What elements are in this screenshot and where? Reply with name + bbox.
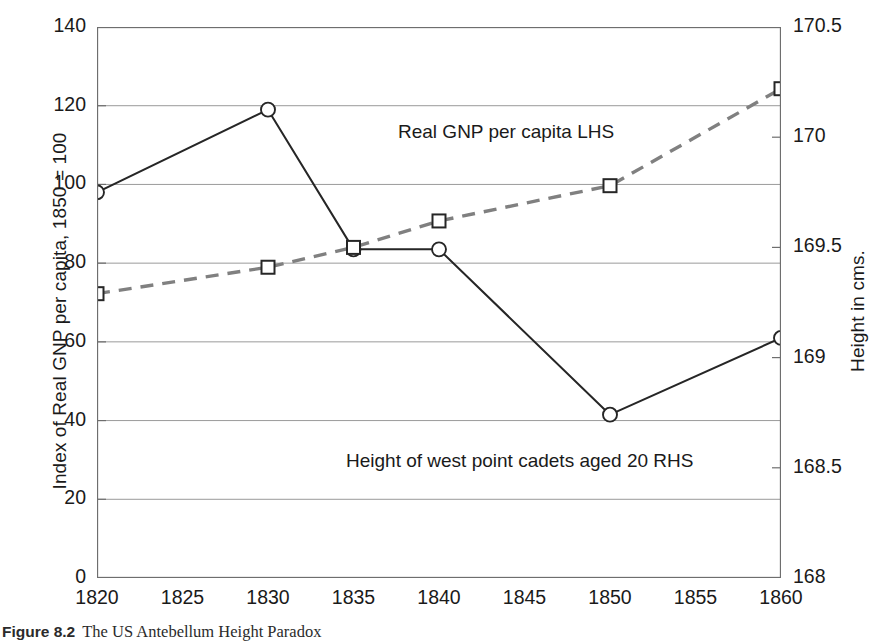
data-point-marker: [603, 408, 617, 422]
y-axis-right-ticks: [772, 27, 781, 578]
y-axis-left-tick-label: 0: [0, 565, 86, 588]
y-axis-left-tick-label: 100: [0, 171, 86, 194]
annotation-real-gnp-per-capita: Real GNP per capita LHS: [398, 121, 614, 143]
plot-frame: [98, 28, 781, 578]
y-axis-right-tick-label: 169: [793, 345, 879, 368]
y-axis-right-tick-label: 170: [793, 124, 879, 147]
y-axis-right-tick-label: 168: [793, 565, 879, 588]
x-axis-tick-label: 1850: [570, 586, 650, 609]
y-axis-left-tick-label: 40: [0, 408, 86, 431]
y-axis-right-tick-label: 168.5: [793, 455, 879, 478]
figure-caption: Figure 8.2The US Antebellum Height Parad…: [2, 622, 892, 641]
chart-svg: [97, 27, 781, 578]
data-point-marker: [432, 242, 446, 256]
x-axis-tick-label: 1840: [399, 586, 479, 609]
y-axis-left-tick-label: 140: [0, 14, 86, 37]
y-axis-right-tick-label: 169.5: [793, 234, 879, 257]
data-point-marker: [262, 261, 275, 274]
figure-container: Index of Real GNP per capita, 1850 = 100…: [0, 0, 895, 641]
x-axis-tick-label: 1845: [485, 586, 565, 609]
y-axis-right-tick-label: 170.5: [793, 14, 879, 37]
x-axis-tick-label: 1860: [741, 586, 821, 609]
data-point-marker: [347, 241, 360, 254]
data-point-marker: [261, 103, 275, 117]
x-axis-tick-label: 1825: [143, 586, 223, 609]
x-axis-tick-label: 1855: [656, 586, 736, 609]
data-point-marker: [433, 214, 446, 227]
figure-caption-text: The US Antebellum Height Paradox: [82, 622, 321, 641]
plot-area: [97, 27, 781, 578]
y-axis-left-tick-label: 20: [0, 486, 86, 509]
y-axis-left-tick-label: 60: [0, 329, 86, 352]
x-axis-tick-label: 1835: [314, 586, 394, 609]
y-axis-left-ticks: [97, 27, 106, 578]
annotation-height-west-point-cadets: Height of west point cadets aged 20 RHS: [346, 450, 693, 472]
x-axis-tick-label: 1820: [57, 586, 137, 609]
data-point-marker: [604, 179, 617, 192]
series-line-0: [97, 110, 781, 415]
gridlines: [97, 106, 781, 500]
y-axis-left-tick-label: 80: [0, 250, 86, 273]
x-axis-tick-label: 1830: [228, 586, 308, 609]
figure-caption-number: Figure 8.2: [2, 623, 75, 640]
y-axis-left-tick-label: 120: [0, 93, 86, 116]
